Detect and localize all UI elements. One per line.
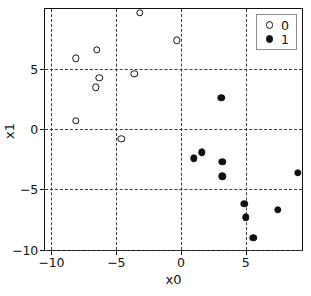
data-point-class-0 <box>173 37 180 44</box>
y-axis-tick-label: 5 <box>30 62 38 77</box>
legend-marker-wrap <box>262 21 277 28</box>
data-point-class-0 <box>118 135 125 142</box>
x-axis-tick-label: 5 <box>242 255 250 270</box>
y-axis-tick <box>40 69 45 70</box>
legend-marker-wrap <box>262 35 277 42</box>
legend: 01 <box>256 14 297 50</box>
gridline-horizontal <box>45 69 302 70</box>
data-point-class-1 <box>217 94 224 101</box>
data-point-class-1 <box>190 154 197 161</box>
y-axis-tick-label: −10 <box>12 242 38 257</box>
gridline-horizontal <box>45 189 302 190</box>
y-axis-tick <box>40 189 45 190</box>
data-point-class-0 <box>136 9 143 16</box>
legend-item[interactable]: 0 <box>262 18 289 32</box>
x-axis-tick-label: −10 <box>39 255 65 270</box>
data-point-class-0 <box>93 46 100 53</box>
plot-area: −10−50550−5−10 x0 01 <box>44 8 303 251</box>
data-point-class-1 <box>241 200 248 207</box>
filled-circle-icon <box>266 35 273 42</box>
data-point-class-0 <box>92 83 99 90</box>
legend-item[interactable]: 1 <box>262 32 289 46</box>
data-point-class-1 <box>294 169 301 176</box>
x-axis-tick-label: −5 <box>107 255 125 270</box>
data-point-class-1 <box>242 213 249 220</box>
gridline-horizontal <box>45 129 302 130</box>
y-axis-tick <box>40 250 45 251</box>
gridline-horizontal <box>45 250 302 251</box>
data-point-class-0 <box>72 55 79 62</box>
data-point-class-0 <box>131 70 138 77</box>
open-circle-icon <box>266 21 273 28</box>
scatter-plot-figure: −10−50550−5−10 x0 01 x1 <box>0 0 311 296</box>
x-axis-tick-label: 0 <box>177 255 185 270</box>
y-axis-tick <box>40 129 45 130</box>
x-axis-label: x0 <box>45 272 302 287</box>
data-point-class-0 <box>96 74 103 81</box>
data-point-class-1 <box>250 234 257 241</box>
legend-item-label: 1 <box>281 32 289 47</box>
data-point-class-1 <box>274 206 281 213</box>
legend-item-label: 0 <box>281 18 289 33</box>
y-axis-tick-label: −5 <box>20 182 38 197</box>
y-axis-label: x1 <box>2 123 17 139</box>
y-axis-tick-label: 0 <box>30 122 38 137</box>
data-point-class-0 <box>72 117 79 124</box>
data-point-class-1 <box>198 148 205 155</box>
data-point-class-1 <box>219 158 226 165</box>
data-point-class-1 <box>219 173 226 180</box>
